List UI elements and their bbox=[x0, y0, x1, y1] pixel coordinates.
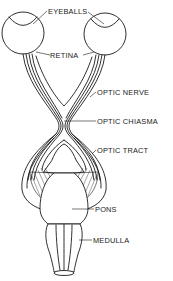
left-eyeball bbox=[2, 12, 44, 54]
pons bbox=[40, 173, 88, 224]
label-eyeballs: EYEBALLS bbox=[48, 7, 87, 16]
label-optic-chiasma: OPTIC CHIASMA bbox=[97, 117, 158, 126]
optic-pathway-diagram: EYEBALLS RETINA OPTIC NERVE OPTIC CHIASM… bbox=[0, 0, 173, 281]
label-pons: PONS bbox=[95, 205, 117, 214]
nerve-inner-fork bbox=[36, 56, 92, 106]
left-optic-nerve bbox=[23, 54, 63, 180]
label-optic-tract: OPTIC TRACT bbox=[97, 146, 149, 155]
medulla bbox=[46, 224, 82, 276]
label-optic-nerve: OPTIC NERVE bbox=[97, 88, 149, 97]
label-medulla: MEDULLA bbox=[93, 236, 129, 245]
tract-inner-outline bbox=[44, 144, 84, 173]
right-eyeball bbox=[84, 13, 126, 55]
label-retina: RETINA bbox=[50, 51, 78, 60]
